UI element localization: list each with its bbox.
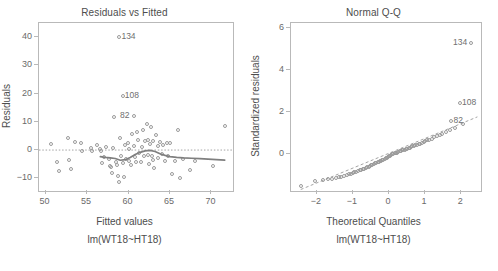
panel-title: Residuals vs Fitted	[0, 7, 249, 18]
x-tick-label: −1	[347, 196, 357, 206]
x-tick-mark	[388, 190, 389, 194]
x-axis-subtitle: lm(WT18~HT18)	[0, 234, 249, 245]
y-tick-label: 40	[6, 31, 32, 41]
x-tick-label: 65	[164, 196, 174, 206]
x-tick-label: 1	[422, 196, 427, 206]
y-tick-label: 0	[258, 148, 284, 158]
y-tick-mark	[286, 111, 290, 112]
loess-smoother-line	[100, 150, 224, 160]
outlier-label: 108	[125, 90, 139, 100]
y-tick-label: 4	[258, 64, 284, 74]
figure-canvas: Residuals vs Fitted Residuals Fitted val…	[0, 0, 498, 271]
y-tick-mark	[286, 69, 290, 70]
x-axis-title: Fitted values	[0, 216, 249, 227]
panel-residuals-vs-fitted: Residuals vs Fitted Residuals Fitted val…	[0, 0, 249, 271]
outlier-label: 108	[462, 97, 476, 107]
outlier-label: 82	[453, 115, 462, 125]
y-tick-label: 6	[258, 22, 284, 32]
y-tick-label: 2	[258, 106, 284, 116]
x-tick-mark	[210, 190, 211, 194]
x-tick-mark	[128, 190, 129, 194]
panel-title: Normal Q-Q	[249, 7, 498, 18]
plot-overlay	[291, 23, 481, 191]
x-tick-mark	[45, 190, 46, 194]
y-tick-mark	[286, 153, 290, 154]
plot-box	[290, 22, 482, 192]
x-tick-label: 0	[386, 196, 391, 206]
outlier-label: 134	[121, 31, 135, 41]
y-tick-mark	[34, 121, 38, 122]
x-tick-label: 60	[123, 196, 133, 206]
plot-box	[38, 22, 234, 192]
y-tick-mark	[34, 149, 38, 150]
x-tick-mark	[424, 190, 425, 194]
reference-line	[301, 117, 478, 190]
outlier-label: 134	[453, 37, 467, 47]
x-tick-mark	[460, 190, 461, 194]
y-tick-label: 20	[6, 88, 32, 98]
x-tick-label: 2	[458, 196, 463, 206]
y-tick-label: 30	[6, 59, 32, 69]
y-tick-mark	[34, 64, 38, 65]
y-tick-mark	[34, 177, 38, 178]
y-tick-label: 0	[6, 144, 32, 154]
plot-overlay	[39, 23, 233, 191]
y-tick-label: −10	[6, 172, 32, 182]
x-tick-label: 70	[205, 196, 215, 206]
x-tick-label: 55	[81, 196, 91, 206]
panel-normal-qq: Normal Q-Q Standardized residuals Theore…	[249, 0, 498, 271]
x-axis-subtitle: lm(WT18~HT18)	[249, 234, 498, 245]
y-tick-label: 10	[6, 116, 32, 126]
x-tick-mark	[86, 190, 87, 194]
x-tick-mark	[316, 190, 317, 194]
y-tick-mark	[34, 93, 38, 94]
y-tick-mark	[34, 36, 38, 37]
x-axis-title: Theoretical Quantiles	[249, 216, 498, 227]
outlier-label: 82	[120, 110, 129, 120]
x-tick-mark	[169, 190, 170, 194]
x-tick-label: −2	[311, 196, 321, 206]
x-tick-label: 50	[40, 196, 50, 206]
x-tick-mark	[352, 190, 353, 194]
y-tick-mark	[286, 27, 290, 28]
